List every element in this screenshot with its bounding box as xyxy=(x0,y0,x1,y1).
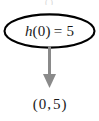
input-close-paren: ) xyxy=(46,23,51,40)
pair-open-paren: ( xyxy=(33,96,38,112)
pair-x-value: 0 xyxy=(39,96,47,112)
top-cutoff-artifact: ( ) xyxy=(38,0,60,5)
output-value: 5 xyxy=(66,23,74,40)
pair-comma: , xyxy=(47,96,51,112)
input-value: 0 xyxy=(38,23,46,40)
equation-text: h(0)=5 xyxy=(3,13,96,49)
arrow-down-icon xyxy=(40,46,59,89)
figure-canvas: ( ) h(0)=5 (0,5) xyxy=(0,0,99,121)
function-name: h xyxy=(25,23,33,40)
pair-close-paren: ) xyxy=(61,96,66,112)
ellipse-callout: h(0)=5 xyxy=(3,13,96,49)
ordered-pair-text: (0,5) xyxy=(0,96,99,113)
pair-y-value: 5 xyxy=(53,96,61,112)
down-arrow xyxy=(40,46,59,89)
equals-sign: = xyxy=(54,23,63,40)
